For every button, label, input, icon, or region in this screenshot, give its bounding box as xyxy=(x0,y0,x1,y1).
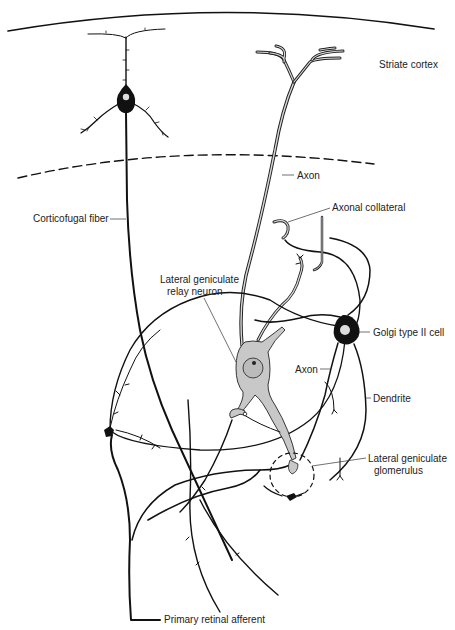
label-relay-neuron-line2: relay neuron xyxy=(167,286,223,297)
pial-surface-arc xyxy=(8,12,434,31)
label-axon-upper: Axon xyxy=(297,170,320,181)
glomerulus-relay-dendrite xyxy=(288,460,298,474)
label-glomerulus-line2: glomerulus xyxy=(374,465,423,476)
label-golgi-cell: Golgi type II cell xyxy=(373,327,444,338)
leader-glomerulus xyxy=(312,458,366,466)
cortex-boundary-dashed-arc xyxy=(18,155,374,178)
label-corticofugal-fiber: Corticofugal fiber xyxy=(33,213,109,224)
relay-upper-dendrite xyxy=(258,254,303,340)
relay-axon xyxy=(241,46,343,345)
lgn-circuit-diagram: Striate cortex Axon Axonal collateral Co… xyxy=(0,0,455,630)
label-axon-lower: Axon xyxy=(295,364,318,375)
retinal-afferents xyxy=(104,330,304,620)
label-glomerulus-line1: Lateral geniculate xyxy=(368,453,447,464)
leader-axonal-collateral xyxy=(288,208,330,222)
relay-neuron xyxy=(230,327,296,460)
vertical-fiber xyxy=(314,217,322,270)
lgn-arc-fiber xyxy=(110,293,338,431)
label-axonal-collateral: Axonal collateral xyxy=(332,202,405,213)
label-relay-neuron-line1: Lateral geniculate xyxy=(160,274,239,285)
label-striate-cortex: Striate cortex xyxy=(379,59,438,70)
leader-relay-neuron xyxy=(204,298,236,362)
label-retinal-afferent: Primary retinal afferent xyxy=(164,614,265,625)
label-dendrite: Dendrite xyxy=(373,393,411,404)
